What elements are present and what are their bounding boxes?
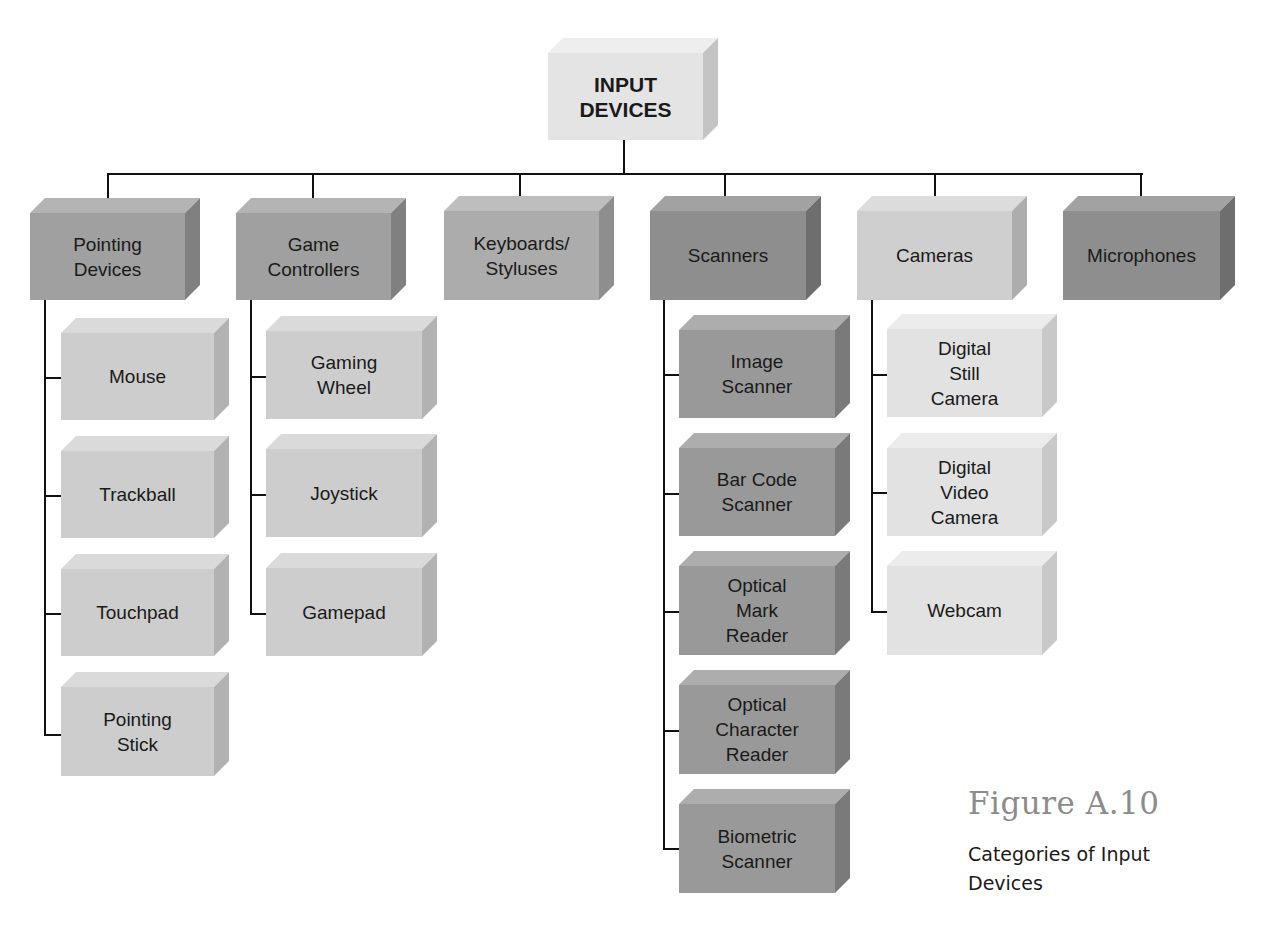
- box-side-face: [185, 198, 200, 300]
- node-label: Stick: [103, 732, 172, 757]
- box-front-face: Webcam: [887, 566, 1042, 655]
- node-biometric-scanner: Biometric Scanner: [679, 789, 850, 893]
- box-side-face: [1042, 433, 1057, 536]
- box-top-face: [61, 318, 229, 333]
- node-label: Digital: [931, 336, 999, 361]
- box-front-face: Keyboards/ Styluses: [444, 211, 599, 300]
- node-gamepad: Gamepad: [266, 553, 437, 656]
- trunk-scanners: [663, 300, 665, 850]
- node-label: Touchpad: [96, 600, 178, 625]
- node-label: Pointing: [103, 707, 172, 732]
- node-mouse: Mouse: [61, 318, 229, 420]
- box-front-face: Image Scanner: [679, 330, 835, 418]
- box-top-face: [444, 196, 614, 211]
- branch-ocr: [663, 730, 680, 732]
- node-label: Mark: [726, 598, 788, 623]
- category-label: Game: [268, 232, 360, 257]
- node-label: Gaming: [311, 350, 378, 375]
- node-touchpad: Touchpad: [61, 554, 229, 656]
- root-label-line2: DEVICES: [579, 97, 671, 122]
- node-label: Image: [722, 349, 793, 374]
- category-label: Cameras: [896, 243, 973, 268]
- box-top-face: [679, 551, 850, 566]
- node-label: Camera: [931, 386, 999, 411]
- box-side-face: [1220, 196, 1235, 300]
- box-top-face: [887, 433, 1057, 448]
- box-top-face: [1063, 196, 1235, 211]
- category-label: Pointing: [73, 232, 142, 257]
- category-label: Devices: [73, 257, 142, 282]
- branch-image-scanner: [663, 374, 680, 376]
- box-front-face: Trackball: [61, 451, 214, 538]
- branch-biometric: [663, 848, 680, 850]
- category-keyboards-styluses: Keyboards/ Styluses: [444, 196, 614, 300]
- box-side-face: [214, 318, 229, 420]
- node-optical-mark-reader: Optical Mark Reader: [679, 551, 850, 655]
- branch-gamepad: [250, 613, 267, 615]
- node-digital-still-camera: Digital Still Camera: [887, 314, 1057, 417]
- box-top-face: [548, 38, 718, 53]
- figure-caption: Categories of Input Devices: [968, 840, 1208, 898]
- node-image-scanner: Image Scanner: [679, 315, 850, 418]
- node-label: Video: [931, 480, 999, 505]
- branch-touchpad: [44, 613, 61, 615]
- category-label: Styluses: [473, 256, 569, 281]
- box-top-face: [266, 434, 437, 449]
- node-trackball: Trackball: [61, 436, 229, 538]
- node-label: Mouse: [109, 364, 166, 389]
- trunk-cameras: [871, 300, 873, 613]
- node-label: Joystick: [310, 481, 378, 506]
- box-top-face: [679, 670, 850, 685]
- category-label: Controllers: [268, 257, 360, 282]
- box-side-face: [214, 672, 229, 776]
- node-label: Scanner: [722, 374, 793, 399]
- category-label: Keyboards/: [473, 231, 569, 256]
- box-front-face: Touchpad: [61, 569, 214, 656]
- box-front-face: Optical Character Reader: [679, 685, 835, 774]
- branch-mouse: [44, 377, 61, 379]
- box-top-face: [61, 554, 229, 569]
- box-top-face: [30, 198, 200, 213]
- box-side-face: [391, 198, 406, 300]
- figure-number: Figure A.10: [968, 785, 1159, 821]
- category-pointing-devices: Pointing Devices: [30, 198, 200, 300]
- root-stem: [623, 140, 625, 175]
- box-side-face: [422, 553, 437, 656]
- node-label: Reader: [726, 623, 788, 648]
- trunk-game: [250, 300, 252, 615]
- node-label: Wheel: [311, 375, 378, 400]
- node-label: Trackball: [99, 482, 175, 507]
- node-optical-character-reader: Optical Character Reader: [679, 670, 850, 774]
- box-front-face: Game Controllers: [236, 213, 391, 300]
- box-top-face: [679, 789, 850, 804]
- branch-trackball: [44, 495, 61, 497]
- node-label: Biometric: [717, 824, 796, 849]
- box-front-face: Microphones: [1063, 211, 1220, 300]
- node-label: Scanner: [717, 849, 796, 874]
- box-side-face: [214, 436, 229, 538]
- branch-webcam: [871, 611, 888, 613]
- box-top-face: [679, 315, 850, 330]
- box-side-face: [835, 433, 850, 536]
- box-top-face: [887, 551, 1057, 566]
- box-side-face: [835, 670, 850, 774]
- node-label: Bar Code: [717, 467, 797, 492]
- box-side-face: [1042, 314, 1057, 417]
- category-label: Microphones: [1087, 243, 1196, 268]
- node-label: Digital: [931, 455, 999, 480]
- box-top-face: [650, 196, 821, 211]
- box-top-face: [857, 196, 1027, 211]
- box-front-face: Cameras: [857, 211, 1012, 300]
- branch-joystick: [250, 494, 267, 496]
- box-side-face: [835, 789, 850, 893]
- box-front-face: Gamepad: [266, 568, 422, 656]
- box-top-face: [266, 553, 437, 568]
- bus-line: [107, 173, 1143, 175]
- node-label: Gamepad: [302, 600, 385, 625]
- node-label: Still: [931, 361, 999, 386]
- node-webcam: Webcam: [887, 551, 1057, 655]
- box-top-face: [236, 198, 406, 213]
- box-top-face: [887, 314, 1057, 329]
- branch-bar-code: [663, 493, 680, 495]
- node-label: Scanner: [717, 492, 797, 517]
